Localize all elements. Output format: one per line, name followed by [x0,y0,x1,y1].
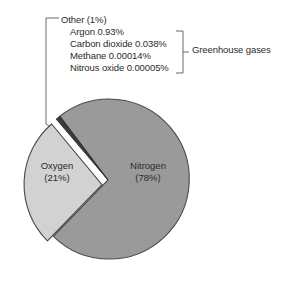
other-leader-line [46,18,59,131]
slice-label-nitrogen-name: Nitrogen [117,160,179,172]
greenhouse-bracket [176,31,189,73]
breakdown-item-methane: Methane 0.00014% [70,50,151,61]
slice-label-oxygen-name: Oxygen [26,160,88,172]
callout-label-other: Other (1%) [61,14,106,25]
breakdown-item-nitrous-oxide: Nitrous oxide 0.00005% [70,62,169,73]
slice-label-oxygen-value: (21%) [26,172,88,184]
slice-label-nitrogen: Nitrogen (78%) [117,160,179,184]
pie-chart-figure: Oxygen (21%) Nitrogen (78%) Other (1%) A… [0,0,288,284]
slice-label-nitrogen-value: (78%) [117,172,179,184]
slice-label-oxygen: Oxygen (21%) [26,160,88,184]
greenhouse-gases-label: Greenhouse gases [192,44,271,55]
breakdown-item-carbon-dioxide: Carbon dioxide 0.038% [70,38,167,49]
breakdown-item-argon: Argon 0.93% [70,26,124,37]
